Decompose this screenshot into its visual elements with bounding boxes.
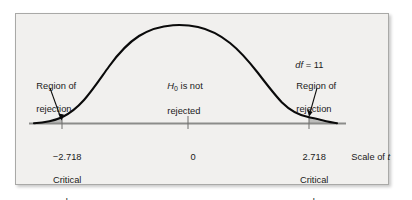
region-right-line1: Region of xyxy=(296,81,336,91)
label-critical-value-left: −2.718 Critical value xyxy=(30,141,94,200)
h0-line2: rejected xyxy=(167,106,200,116)
region-left-line1: Region of xyxy=(36,81,76,91)
figure-container: Region of rejection Region of rejection … xyxy=(0,0,412,200)
region-left-line2: rejection xyxy=(36,104,71,114)
crit-left-line2: value xyxy=(56,197,78,200)
h0-line1: is not xyxy=(181,81,203,91)
crit-left-line1: Critical xyxy=(53,175,81,185)
crit-right-line2: value xyxy=(303,197,325,200)
crit-right-line1: Critical xyxy=(300,175,328,185)
label-null-hypothesis-not-rejected: H0 is not rejected xyxy=(157,70,203,128)
df-symbol: df xyxy=(295,60,303,70)
zero-value: 0 xyxy=(191,152,196,162)
label-axis-scale-of-t: Scale of t xyxy=(341,141,390,175)
crit-right-value: 2.718 xyxy=(303,152,326,162)
label-degrees-of-freedom: df = 11 xyxy=(285,49,323,83)
scale-variable: t xyxy=(388,152,391,162)
scale-prefix: Scale of xyxy=(351,152,387,162)
region-right-line2: rejection xyxy=(296,104,331,114)
label-region-of-rejection-left: Region of rejection xyxy=(26,70,76,126)
df-value: = 11 xyxy=(306,60,324,70)
h0-subscript: 0 xyxy=(174,85,178,92)
crit-left-value: −2.718 xyxy=(53,152,82,162)
label-axis-zero: 0 xyxy=(170,141,206,175)
label-critical-value-right: 2.718 Critical value xyxy=(277,141,341,200)
